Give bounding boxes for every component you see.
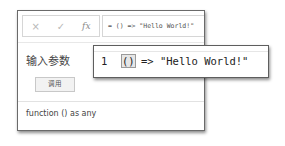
code-text: => "Hello World!" (135, 55, 249, 67)
divider (94, 51, 268, 52)
code-line[interactable]: () => "Hello World!" (122, 55, 248, 67)
highlighted-parens: () (122, 55, 135, 67)
divider (18, 42, 204, 43)
cancel-icon[interactable]: × (31, 21, 39, 32)
code-editor-popup[interactable]: 1 () => "Hello World!" (93, 45, 269, 78)
formula-bar: × ✓ fx = () => "Hello World!" (22, 15, 204, 37)
formula-input[interactable]: = () => "Hello World!" (102, 15, 204, 37)
formula-buttons: × ✓ fx (22, 15, 100, 37)
function-signature: function () as any (26, 109, 96, 118)
panel-title: 输入参数 (26, 52, 70, 68)
fx-icon[interactable]: fx (82, 21, 90, 31)
invoke-button[interactable]: 调用 (35, 77, 75, 92)
confirm-icon[interactable]: ✓ (57, 21, 65, 32)
line-number: 1 (101, 55, 107, 67)
divider (18, 101, 204, 102)
